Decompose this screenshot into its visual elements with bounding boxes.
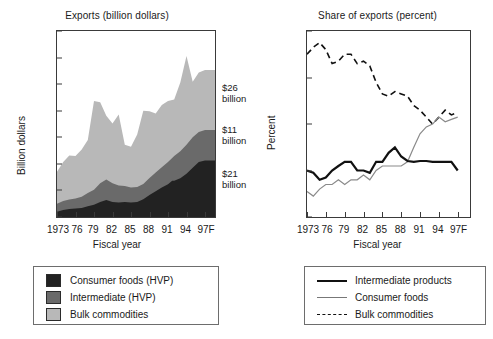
left-xtick-mark-1973 (57, 212, 58, 217)
right-xtick-label-76: 76 (321, 224, 332, 235)
left-xtick-mark-91 (168, 212, 169, 217)
right-xtick-labels: 1973 76 79 82 85 88 91 94 97F (306, 221, 471, 235)
right-x-axis-label: Fiscal year (256, 239, 493, 250)
exports-plot-area: 0 10 20 30 40 50 60 70 (56, 30, 216, 218)
right-xtick-mark-82 (364, 212, 365, 217)
left-xtick-mark-97F (205, 212, 206, 217)
left-xtick-label-79: 79 (87, 224, 98, 235)
left-ytick-mark-60 (57, 57, 62, 58)
left-y-axis-label: Billion dollars (16, 116, 27, 175)
right-xtick-mark-85 (382, 212, 383, 217)
left-xtick-mark-85 (131, 212, 132, 217)
right-xtick-label-94: 94 (432, 224, 443, 235)
exports-stacked-area-svg (57, 31, 215, 217)
left-xtick-label-94: 94 (180, 224, 191, 235)
swatch-consumer-foods-icon (46, 274, 61, 287)
line-key-consumer-foods-icon (317, 292, 347, 303)
right-xtick-label-97F: 97F (450, 224, 467, 235)
right-xtick-label-82: 82 (357, 224, 368, 235)
legend-label-intermediate-products: Intermediate products (355, 275, 452, 286)
legend-label-bulk-commodities: Bulk commodities (70, 309, 148, 320)
left-xtick-mark-82 (113, 212, 114, 217)
share-lines-svg (307, 31, 470, 217)
exports-chart-panel: Exports (billion dollars) Billion dollar… (0, 0, 250, 250)
share-chart-panel: Share of exports (percent) Percent 0 20 … (250, 0, 493, 250)
right-ytick-label-20: 20 (306, 165, 307, 176)
annotation-consumer-unit: billion (222, 179, 246, 190)
left-xtick-labels: 1973 76 79 82 85 88 91 94 97F (56, 221, 216, 235)
right-ytick-mark-20 (307, 170, 312, 171)
left-xtick-label-1973: 1973 (47, 224, 69, 235)
left-ytick-label-20: 20 (56, 158, 57, 169)
left-xtick-label-91: 91 (161, 224, 172, 235)
line-key-bulk-commodities-icon (317, 309, 347, 320)
annotation-intermediate-unit: billion (222, 135, 246, 146)
annotation-bulk-unit: billion (222, 93, 246, 104)
right-xtick-label-1973: 1973 (297, 224, 319, 235)
annotation-intermediate-value: $11 (222, 124, 246, 135)
left-ytick-mark-10 (57, 190, 62, 191)
annotation-bulk-commodities: $26 billion (222, 82, 246, 104)
annotation-consumer-value: $21 (222, 168, 246, 179)
right-ytick-mark-80 (307, 31, 312, 32)
legend-item-bulk-commodities-line[interactable]: Bulk commodities (317, 306, 485, 322)
left-ytick-label-30: 30 (56, 132, 57, 143)
left-ytick-label-50: 50 (56, 79, 57, 90)
left-ytick-label-40: 40 (56, 105, 57, 116)
right-xtick-label-79: 79 (338, 224, 349, 235)
share-legend-rows: Intermediate products Consumer foods Bul… (305, 267, 485, 322)
left-ytick-mark-30 (57, 137, 62, 138)
legend-item-bulk-commodities[interactable]: Bulk commodities (46, 306, 218, 322)
right-ytick-label-80: 80 (306, 30, 307, 39)
right-chart-title: Share of exports (percent) (256, 10, 493, 21)
legend-label-consumer-foods-hvp: Consumer foods (HVP) (70, 275, 173, 286)
swatch-bulk-commodities-icon (46, 308, 61, 321)
right-xtick-label-91: 91 (413, 224, 424, 235)
left-xtick-mark-88 (150, 212, 151, 217)
left-ytick-label-10: 10 (56, 185, 57, 196)
swatch-intermediate-icon (46, 291, 61, 304)
legend-item-intermediate-products[interactable]: Intermediate products (317, 272, 485, 288)
legend-item-consumer-foods-hvp[interactable]: Consumer foods (HVP) (46, 272, 218, 288)
left-xtick-mark-79 (94, 212, 95, 217)
legend-label-intermediate-hvp: Intermediate (HVP) (70, 292, 156, 303)
line-intermediate-products (307, 147, 458, 180)
line-bulk-commodities (307, 43, 458, 125)
exports-legend: Consumer foods (HVP) Intermediate (HVP) … (33, 266, 219, 325)
annotation-intermediate: $11 billion (222, 124, 246, 146)
left-xtick-mark-76 (76, 212, 77, 217)
line-consumer-foods (307, 117, 458, 196)
legend-item-consumer-foods[interactable]: Consumer foods (317, 289, 485, 305)
legend-item-intermediate-hvp[interactable]: Intermediate (HVP) (46, 289, 218, 305)
left-ytick-label-70: 70 (56, 30, 57, 39)
right-xtick-mark-1973 (307, 212, 308, 217)
left-x-axis-label: Fiscal year (0, 239, 242, 250)
right-xtick-mark-79 (345, 212, 346, 217)
left-xtick-label-97F: 97F (197, 224, 214, 235)
left-ytick-mark-20 (57, 163, 62, 164)
left-ytick-mark-50 (57, 84, 62, 85)
left-xtick-label-85: 85 (124, 224, 135, 235)
annotation-bulk-value: $26 (222, 82, 246, 93)
left-xtick-label-88: 88 (143, 224, 154, 235)
share-plot-area: 0 20 40 60 80 (306, 30, 471, 218)
right-xtick-mark-91 (420, 212, 421, 217)
left-xtick-label-82: 82 (106, 224, 117, 235)
right-xtick-mark-97F (458, 212, 459, 217)
line-key-intermediate-products-icon (317, 275, 347, 286)
right-y-axis-label: Percent (266, 116, 277, 150)
right-xtick-label-88: 88 (395, 224, 406, 235)
left-ytick-mark-40 (57, 110, 62, 111)
left-xtick-label-76: 76 (71, 224, 82, 235)
exports-legend-rows: Consumer foods (HVP) Intermediate (HVP) … (34, 267, 218, 322)
right-xtick-label-85: 85 (376, 224, 387, 235)
right-xtick-mark-94 (439, 212, 440, 217)
right-xtick-mark-76 (326, 212, 327, 217)
left-ytick-label-60: 60 (56, 52, 57, 63)
legend-label-bulk-commodities-line: Bulk commodities (355, 309, 433, 320)
legend-label-consumer-foods: Consumer foods (355, 292, 428, 303)
left-xtick-mark-94 (187, 212, 188, 217)
right-ytick-mark-40 (307, 124, 312, 125)
left-ytick-mark-70 (57, 31, 62, 32)
right-ytick-label-40: 40 (306, 119, 307, 130)
